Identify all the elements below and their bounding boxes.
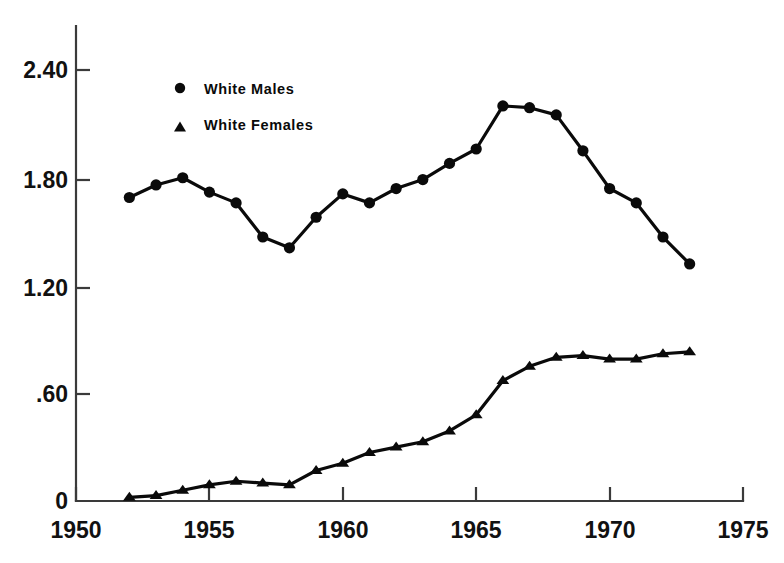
data-point-circle [284, 242, 295, 253]
x-tick-label-1960: 1960 [317, 517, 368, 543]
x-tick-label-1955: 1955 [183, 517, 234, 543]
data-point-circle [444, 158, 455, 169]
data-point-circle [497, 100, 508, 111]
data-point-circle [257, 231, 268, 242]
y-tick-label-2.40: 2.40 [23, 57, 68, 83]
chart-container: 2.40 1.80 1.20 .60 0 1950 1955 1960 1965… [0, 0, 784, 563]
legend-label-white-males: White Males [204, 81, 294, 97]
data-point-circle [150, 179, 161, 190]
data-point-circle [471, 143, 482, 154]
data-point-circle [604, 183, 615, 194]
data-point-circle [551, 109, 562, 120]
data-point-circle [631, 197, 642, 208]
data-point-circle [124, 192, 135, 203]
x-tick-label-1970: 1970 [584, 517, 635, 543]
y-tick-label-0: 0 [55, 488, 68, 514]
data-point-circle [417, 174, 428, 185]
x-tick-label-1965: 1965 [450, 517, 501, 543]
chart-background [0, 0, 784, 563]
data-point-circle [577, 145, 588, 156]
data-point-circle [364, 197, 375, 208]
data-point-circle [230, 197, 241, 208]
line-chart: 2.40 1.80 1.20 .60 0 1950 1955 1960 1965… [0, 0, 784, 563]
y-tick-label-1.80: 1.80 [23, 167, 68, 193]
data-point-circle [524, 102, 535, 113]
legend-label-white-females: White Females [204, 117, 313, 133]
data-point-circle [204, 187, 215, 198]
data-point-circle [337, 188, 348, 199]
y-tick-label-0.60: .60 [36, 381, 68, 407]
legend-marker-circle-icon [175, 83, 185, 93]
y-tick-label-1.20: 1.20 [23, 275, 68, 301]
data-point-circle [657, 231, 668, 242]
data-point-circle [177, 172, 188, 183]
data-point-circle [391, 183, 402, 194]
data-point-circle [311, 212, 322, 223]
data-point-circle [684, 258, 695, 269]
x-tick-label-1975: 1975 [717, 517, 768, 543]
x-tick-label-1950: 1950 [50, 517, 101, 543]
